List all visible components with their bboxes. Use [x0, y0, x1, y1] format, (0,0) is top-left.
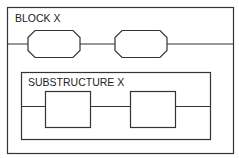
octagon-element-2 — [115, 31, 167, 58]
square-element-1 — [46, 92, 91, 128]
octagon-element-1 — [28, 31, 80, 58]
square-element-2 — [131, 92, 176, 128]
block-diagram: BLOCK X SUBSTRUCTURE X — [0, 0, 239, 158]
block-x-label: BLOCK X — [15, 12, 61, 24]
substructure-x-label: SUBSTRUCTURE X — [28, 76, 124, 88]
